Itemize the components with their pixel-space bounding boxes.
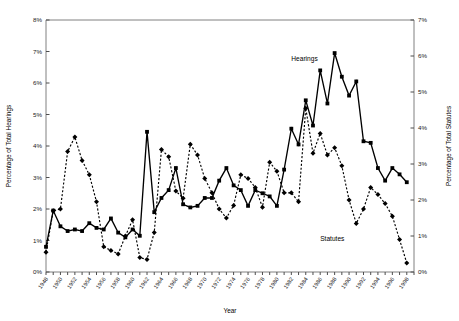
data-point-marker	[95, 226, 99, 230]
y-axis-left-tick-label: 4%	[33, 142, 42, 149]
y-axis-left-tick-label: 6%	[33, 79, 42, 86]
data-point-marker	[224, 166, 228, 170]
data-point-marker	[167, 188, 171, 192]
data-point-marker	[59, 224, 63, 228]
y-axis-right-tick-label: 3%	[418, 160, 427, 167]
data-point-marker	[196, 204, 200, 208]
data-point-marker	[131, 228, 135, 232]
y-axis-right-title: Percentage of Total Statutes	[445, 106, 453, 186]
x-axis-title: Year	[224, 307, 238, 314]
data-point-marker	[275, 204, 279, 208]
data-point-marker	[333, 51, 337, 55]
data-point-marker	[340, 75, 344, 79]
y-axis-right-tick-label: 6%	[418, 52, 427, 59]
y-axis-right-tick-label: 2%	[418, 196, 427, 203]
y-axis-left-tick-label: 0%	[33, 268, 42, 275]
data-point-marker	[304, 98, 308, 102]
data-point-marker	[44, 245, 48, 249]
data-point-marker	[297, 143, 301, 147]
data-point-marker	[160, 196, 164, 200]
y-axis-right-tick-label: 5%	[418, 88, 427, 95]
y-axis-left-title: Percentage of Total Hearings	[5, 105, 13, 187]
y-axis-left-tick-label: 5%	[33, 111, 42, 118]
chart-container: 0%1%2%3%4%5%6%7%8% 0%1%2%3%4%5%6%7% 1948…	[0, 0, 459, 321]
data-point-marker	[318, 69, 322, 73]
data-point-marker	[51, 209, 55, 213]
series-annotation-label: Hearings	[291, 55, 318, 63]
data-point-marker	[326, 102, 330, 106]
data-point-marker	[138, 234, 142, 238]
data-point-marker	[253, 188, 257, 192]
data-point-marker	[261, 191, 265, 195]
data-point-marker	[376, 166, 380, 170]
data-point-marker	[217, 179, 221, 183]
data-point-marker	[232, 183, 236, 187]
data-point-marker	[268, 195, 272, 199]
data-point-marker	[174, 166, 178, 170]
data-point-marker	[398, 172, 402, 176]
y-axis-right-tick-label: 1%	[418, 232, 427, 239]
data-point-marker	[354, 80, 358, 84]
data-point-marker	[66, 229, 70, 233]
data-point-marker	[80, 229, 84, 233]
data-point-marker	[311, 124, 315, 128]
data-point-marker	[282, 168, 286, 172]
data-point-marker	[239, 188, 243, 192]
data-point-marker	[188, 206, 192, 210]
data-point-marker	[362, 139, 366, 143]
y-axis-left-tick-label: 1%	[33, 237, 42, 244]
data-point-marker	[152, 210, 156, 214]
data-point-marker	[347, 94, 351, 98]
data-point-marker	[289, 127, 293, 131]
data-point-marker	[123, 235, 127, 239]
data-point-marker	[390, 166, 394, 170]
data-point-marker	[102, 228, 106, 232]
y-axis-right-tick-label: 7%	[418, 16, 427, 23]
data-point-marker	[203, 196, 207, 200]
series-annotation-label: Statutes	[320, 235, 345, 242]
data-point-marker	[369, 141, 373, 145]
dual-axis-line-chart: 0%1%2%3%4%5%6%7%8% 0%1%2%3%4%5%6%7% 1948…	[0, 0, 459, 321]
data-point-marker	[246, 204, 250, 208]
data-point-marker	[383, 179, 387, 183]
y-axis-left-tick-label: 3%	[33, 174, 42, 181]
y-axis-left-tick-label: 7%	[33, 48, 42, 55]
data-point-marker	[116, 231, 120, 235]
data-point-marker	[87, 221, 91, 225]
data-point-marker	[145, 130, 149, 134]
y-axis-right-tick-label: 0%	[418, 268, 427, 275]
data-point-marker	[181, 202, 185, 206]
data-point-marker	[405, 180, 409, 184]
y-axis-right-tick-label: 4%	[418, 124, 427, 131]
data-point-marker	[73, 228, 77, 232]
chart-background	[0, 0, 459, 321]
y-axis-left-tick-label: 2%	[33, 205, 42, 212]
data-point-marker	[109, 217, 113, 221]
y-axis-left-tick-label: 8%	[33, 16, 42, 23]
data-point-marker	[210, 196, 214, 200]
